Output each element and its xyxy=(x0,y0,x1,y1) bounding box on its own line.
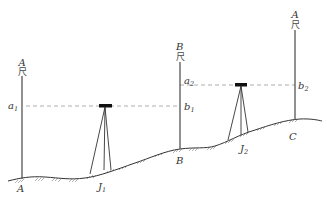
level-j1-label: J1 xyxy=(96,181,106,194)
reading-b2: b2 xyxy=(298,80,309,93)
ground-hatching xyxy=(15,119,298,183)
staff-c: A 尺 b2 C xyxy=(289,9,309,142)
leveling-diagram: A 尺 a1 A J1 B 尺 a2 b1 B J2 A 尺 b2 C xyxy=(0,0,327,199)
level-j2-label: J2 xyxy=(238,143,248,156)
staff-a-char: 尺 xyxy=(18,67,27,77)
staff-a: A 尺 a1 A xyxy=(8,57,27,194)
ground-line xyxy=(8,119,322,181)
staff-b: B 尺 a2 b1 B xyxy=(175,41,195,166)
level-j2-head xyxy=(235,83,247,87)
point-c-label: C xyxy=(289,131,297,142)
staff-b-top-label: B xyxy=(175,41,183,52)
reading-b1: b1 xyxy=(184,101,195,114)
staff-c-char: 尺 xyxy=(291,20,300,30)
staff-b-char: 尺 xyxy=(176,52,185,62)
level-instrument-j1: J1 xyxy=(90,104,112,194)
reading-a2: a2 xyxy=(184,75,194,88)
staff-c-top-label: A xyxy=(291,9,299,20)
point-a-label: A xyxy=(16,183,24,194)
level-instrument-j2: J2 xyxy=(228,83,248,156)
level-j1-head xyxy=(99,104,112,108)
point-b-label: B xyxy=(175,155,183,166)
reading-a1: a1 xyxy=(8,100,18,113)
